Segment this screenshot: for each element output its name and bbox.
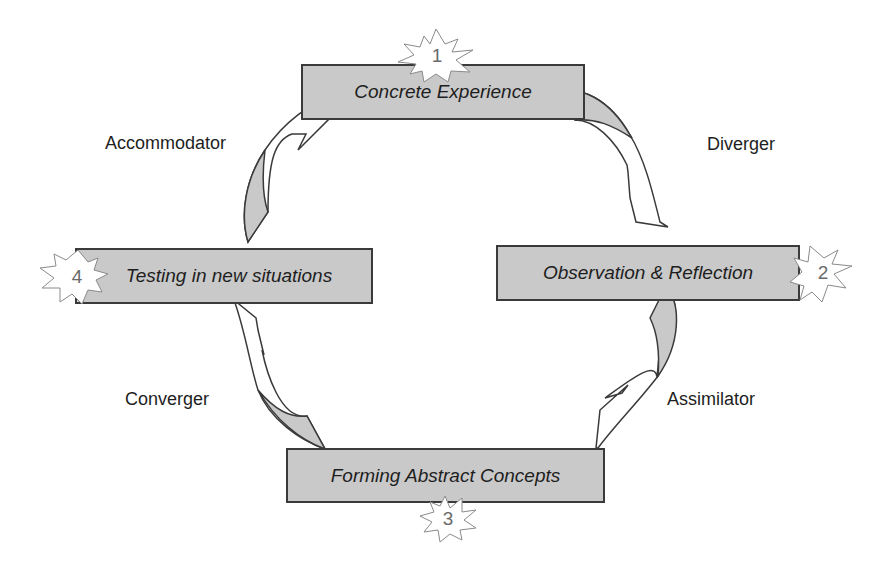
stage-number-2: 2 bbox=[808, 262, 838, 284]
stage-box-concrete-experience: Concrete Experience bbox=[301, 64, 585, 120]
stage-box-abstract-concepts: Forming Abstract Concepts bbox=[286, 448, 605, 503]
stage-box-testing: Testing in new situations bbox=[75, 248, 373, 304]
style-label-assimilator: Assimilator bbox=[667, 389, 755, 410]
stage-number-4: 4 bbox=[62, 266, 92, 288]
style-label-accommodator: Accommodator bbox=[105, 133, 226, 154]
style-label-diverger: Diverger bbox=[707, 134, 775, 155]
stage-label: Forming Abstract Concepts bbox=[331, 465, 561, 487]
stage-label: Testing in new situations bbox=[126, 265, 332, 287]
stage-label: Observation & Reflection bbox=[543, 262, 753, 284]
stage-label: Concrete Experience bbox=[354, 81, 531, 103]
stage-number-3: 3 bbox=[433, 508, 463, 530]
style-label-converger: Converger bbox=[125, 389, 209, 410]
stage-number-1: 1 bbox=[422, 45, 452, 67]
stage-box-observation-reflection: Observation & Reflection bbox=[496, 245, 800, 301]
arrow-reflection-to-concepts bbox=[596, 286, 676, 448]
arrow-concepts-to-testing bbox=[234, 300, 325, 449]
